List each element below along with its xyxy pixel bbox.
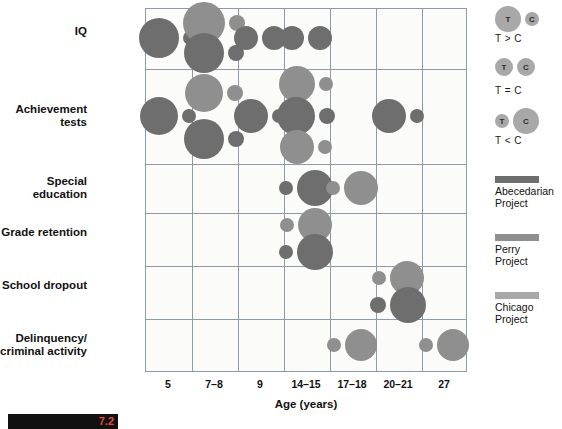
x-axis-tick: 27	[421, 378, 467, 390]
grid-row-line	[146, 164, 466, 165]
legend-bubble-treatment: T	[495, 6, 521, 32]
bubble-treatment	[185, 74, 223, 112]
bubble-treatment	[419, 338, 433, 352]
legend-bubble-control: C	[525, 12, 539, 26]
bubble-treatment	[372, 99, 406, 133]
bubble-treatment	[370, 297, 386, 313]
legend-relation-entry: TCT > C	[495, 6, 522, 44]
bubble-treatment	[184, 33, 224, 73]
bubble-treatment	[279, 181, 293, 195]
legend-relation-entry: TCT = C	[495, 58, 522, 96]
bubble-treatment	[280, 26, 304, 50]
bubble-control	[344, 171, 378, 205]
grid-column-line	[422, 9, 423, 371]
bubble-treatment	[277, 97, 315, 135]
legend-bubble-pair: TC	[495, 6, 522, 32]
bubble-control	[227, 85, 243, 101]
legend-color-swatch	[495, 234, 539, 241]
row-label: Achievement tests	[0, 103, 87, 129]
bubble-control	[437, 329, 469, 361]
legend-project-label: Chicago Project	[495, 301, 539, 325]
background-text-bleed	[0, 396, 240, 412]
bubble-treatment	[139, 18, 179, 58]
legend-project-label: Perry Project	[495, 243, 539, 267]
bubble-control	[308, 26, 332, 50]
legend-project-entry: Perry Project	[495, 234, 539, 267]
bubble-control	[319, 77, 333, 91]
bubble-control	[390, 287, 426, 323]
figure-number: 7.2	[99, 415, 114, 427]
legend-relation-caption: T < C	[495, 135, 522, 146]
bubble-treatment	[327, 338, 341, 352]
legend-color-swatch	[495, 176, 539, 183]
legend-project-entry: Chicago Project	[495, 292, 539, 325]
bubble-treatment	[234, 99, 268, 133]
bubble-control	[410, 109, 424, 123]
legend-project-label: Abecedarian Project	[495, 185, 554, 209]
row-label: Special education	[0, 175, 87, 201]
x-axis-tick: 9	[237, 378, 283, 390]
x-axis-tick: 17–18	[329, 378, 375, 390]
bubble-treatment	[184, 119, 224, 159]
legend-relation-caption: T > C	[495, 33, 522, 44]
legend-relation-caption: T = C	[495, 85, 522, 96]
legend-color-swatch	[495, 292, 539, 299]
bubble-control	[319, 108, 335, 124]
bubble-treatment	[140, 97, 178, 135]
bubble-control	[297, 234, 333, 270]
row-label: School dropout	[2, 279, 87, 292]
legend-bubble-treatment: T	[495, 58, 513, 76]
bubble-control	[345, 329, 377, 361]
x-axis-tick: 20–21	[375, 378, 421, 390]
bubble-treatment	[280, 130, 314, 164]
row-label: Grade retention	[1, 226, 87, 239]
legend-bubble-pair: TC	[495, 108, 522, 134]
bubble-control	[228, 131, 244, 147]
legend-relation-entry: TCT < C	[495, 108, 522, 146]
row-label: Delinquency/ criminal activity	[0, 332, 87, 358]
legend-project-entry: Abecedarian Project	[495, 176, 554, 209]
legend-bubble-pair: TC	[495, 58, 522, 84]
figure-number-bar: 7.2	[8, 414, 118, 429]
legend-bubble-treatment: T	[495, 114, 509, 128]
bubble-treatment	[326, 181, 340, 195]
chart-figure: IQAchievement testsSpecial educationGrad…	[0, 0, 562, 429]
bubble-treatment	[279, 245, 293, 259]
grid-column-line	[238, 9, 239, 371]
x-axis-tick: 7–8	[191, 378, 237, 390]
bubble-treatment	[234, 26, 258, 50]
x-axis-tick: 14–15	[283, 378, 329, 390]
legend-bubble-control: C	[517, 58, 535, 76]
legend-bubble-control: C	[513, 108, 539, 134]
row-label: IQ	[75, 25, 87, 38]
x-axis-tick: 5	[145, 378, 191, 390]
